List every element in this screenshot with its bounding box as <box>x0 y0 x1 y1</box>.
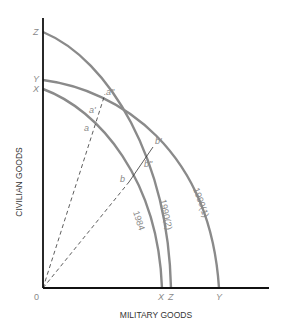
curve-1990-1 <box>43 80 219 288</box>
point-b-prime: b' <box>155 136 162 146</box>
curve-label-1990-2: 1990(2) <box>158 198 174 230</box>
ppf-diagram: Z Y X 0 X Z Y a" a' a b' b" b 1984 1990(… <box>0 0 284 333</box>
y-label-y: Y <box>33 74 40 84</box>
point-a: a <box>84 123 89 133</box>
x-label-z: Z <box>167 292 174 302</box>
curve-label-1990-1: 1990(1) <box>191 186 211 219</box>
ray-b <box>43 182 129 288</box>
point-b-double-prime: b" <box>144 159 153 169</box>
x-label-y: Y <box>216 292 223 302</box>
curve-label-1984: 1984 <box>131 210 147 232</box>
point-b: b <box>120 174 125 184</box>
x-axis-title: MILITARY GOODS <box>120 310 193 320</box>
y-label-z: Z <box>32 27 39 37</box>
x-label-x: X <box>157 292 165 302</box>
point-a-prime: a' <box>89 105 96 115</box>
y-label-x: X <box>32 84 40 94</box>
y-axis-title: CIVILIAN GOODS <box>14 147 24 217</box>
origin-label: 0 <box>34 292 39 302</box>
point-a-double-prime: a" <box>106 87 115 97</box>
curve-1984 <box>43 89 162 288</box>
